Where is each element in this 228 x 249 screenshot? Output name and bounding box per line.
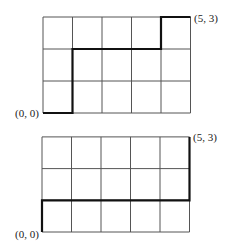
- lattice-path-figure: (0, 0) (5, 3) (0, 0) (5, 3): [0, 0, 228, 249]
- lattice-path: [43, 17, 191, 113]
- top-start-label: (0, 0): [15, 107, 39, 120]
- lattice-path: [42, 137, 190, 232]
- bottom-end-label: (5, 3): [193, 131, 217, 144]
- top-lattice-diagram: [43, 17, 191, 113]
- top-end-label: (5, 3): [194, 12, 218, 25]
- bottom-lattice-diagram: [42, 137, 190, 232]
- bottom-start-label: (0, 0): [15, 228, 39, 241]
